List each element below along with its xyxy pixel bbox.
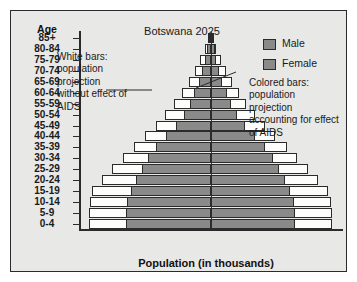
- legend-label-male: Male: [282, 37, 305, 49]
- age-label-30-34: 30-34: [23, 152, 71, 163]
- x-axis-title: Population (in thousands): [69, 257, 343, 269]
- bar-female-with-aids: [211, 33, 213, 43]
- bar-male-with-aids: [166, 131, 211, 141]
- pyramid-row: [69, 186, 343, 196]
- bar-male-with-aids: [136, 175, 211, 185]
- legend-label-female: Female: [282, 57, 317, 69]
- age-label-25-29: 25-29: [23, 163, 71, 174]
- bar-female-with-aids: [211, 44, 215, 54]
- age-label-15-19: 15-19: [23, 185, 71, 196]
- bar-female-with-aids: [211, 88, 227, 98]
- pyramid-row: [69, 197, 343, 207]
- y-axis-tick: [73, 158, 80, 159]
- pyramid-row: [69, 219, 343, 229]
- bar-male-with-aids: [202, 66, 211, 76]
- y-axis-tick: [73, 126, 80, 127]
- bar-male-with-aids: [156, 142, 211, 152]
- pyramid-row: [69, 175, 343, 185]
- bar-male-with-aids: [199, 77, 211, 87]
- bar-female-with-aids: [211, 77, 222, 87]
- legend-item-male: Male: [263, 37, 343, 53]
- bar-female-with-aids: [211, 219, 295, 229]
- y-axis-tick: [73, 38, 80, 39]
- bar-female-with-aids: [211, 121, 245, 131]
- annotation-white-bars: White bars: population projection withou…: [57, 51, 133, 113]
- age-label-10-14: 10-14: [23, 196, 71, 207]
- bar-male-with-aids: [126, 219, 211, 229]
- bar-female-with-aids: [211, 164, 279, 174]
- legend-item-female: Female: [263, 57, 343, 73]
- y-axis-tick: [73, 180, 80, 181]
- bar-female-with-aids: [211, 175, 285, 185]
- bar-female-with-aids: [211, 186, 290, 196]
- bar-male-with-aids: [126, 208, 211, 218]
- pyramid-row: [69, 142, 343, 152]
- y-axis-tick: [73, 191, 80, 192]
- y-axis-tick: [73, 136, 80, 137]
- bar-female-with-aids: [211, 99, 231, 109]
- legend-swatch-female: [263, 59, 276, 70]
- bar-female-with-aids: [211, 153, 273, 163]
- x-axis-line: [79, 229, 343, 231]
- age-label-20-24: 20-24: [23, 174, 71, 185]
- population-pyramid-figure: Botswana 2025 Age 0-45-910-1415-1920-242…: [0, 0, 357, 282]
- pyramid-row: [69, 208, 343, 218]
- y-axis-tick: [73, 224, 80, 225]
- pyramid-row: [69, 153, 343, 163]
- y-axis-tick: [73, 169, 80, 170]
- age-label-40-44: 40-44: [23, 130, 71, 141]
- bar-male-with-aids: [148, 153, 211, 163]
- bar-male-with-aids: [176, 121, 211, 131]
- bar-male-with-aids: [142, 164, 211, 174]
- age-label-35-39: 35-39: [23, 141, 71, 152]
- y-axis-tick: [73, 213, 80, 214]
- bar-male-with-aids: [184, 110, 211, 120]
- bar-female-with-aids: [211, 197, 294, 207]
- bar-female-with-aids: [211, 55, 216, 65]
- bar-female-with-aids: [211, 66, 219, 76]
- bar-female-with-aids: [211, 142, 265, 152]
- legend-swatch-male: [263, 39, 276, 50]
- y-axis-tick: [73, 147, 80, 148]
- chart-frame: Botswana 2025 Age 0-45-910-1415-1920-242…: [10, 10, 347, 272]
- bar-male-with-aids: [190, 99, 211, 109]
- legend: Male Female: [263, 37, 343, 77]
- age-label-85plus: 85+: [23, 32, 71, 43]
- age-label-45-49: 45-49: [23, 120, 71, 131]
- age-label-0-4: 0-4: [23, 218, 71, 229]
- bar-female-with-aids: [211, 208, 295, 218]
- y-axis-tick: [73, 202, 80, 203]
- y-axis-tick: [73, 115, 80, 116]
- bar-male-with-aids: [127, 197, 211, 207]
- bar-male-with-aids: [131, 186, 211, 196]
- bar-male-with-aids: [194, 88, 211, 98]
- annotation-colored-bars: Colored bars: population projection acco…: [249, 77, 341, 139]
- pyramid-row: [69, 164, 343, 174]
- age-label-5-9: 5-9: [23, 207, 71, 218]
- bar-female-with-aids: [211, 110, 237, 120]
